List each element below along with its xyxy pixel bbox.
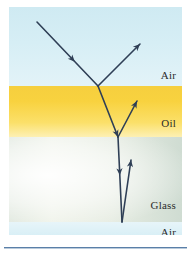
- label-glass: Glass: [151, 199, 176, 211]
- reflected-ray-oil: [118, 101, 137, 137]
- ray-group: [37, 22, 142, 222]
- refracted-ray-oil: [98, 86, 118, 137]
- reflected-ray-oil-arrowhead: [131, 100, 140, 109]
- refracted-ray-glass: [118, 137, 122, 222]
- figure-root: Air Oil Glass Air: [0, 0, 191, 258]
- reflected-ray-air: [98, 44, 140, 86]
- label-air-bottom: Air: [161, 226, 176, 235]
- label-oil: Oil: [161, 117, 176, 129]
- diagram-plate: Air Oil Glass Air: [9, 7, 182, 235]
- bottom-divider-rule-shadow: [4, 248, 187, 249]
- reflected-ray-glass: [122, 160, 131, 222]
- incident-ray: [37, 22, 98, 86]
- label-air-top: Air: [161, 69, 176, 81]
